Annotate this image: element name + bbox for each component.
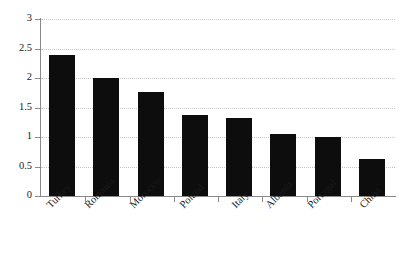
y-tick-label: 1 [0, 131, 32, 142]
y-tick-label: 3 [0, 13, 32, 24]
gridline [41, 49, 395, 50]
gridline [41, 19, 395, 20]
y-tick-mark [35, 196, 41, 197]
y-tick-label: 0 [0, 190, 32, 201]
bar [226, 118, 252, 196]
x-tick-mark [174, 197, 175, 202]
y-tick-label: 1.5 [0, 102, 32, 113]
y-tick-label: 0.5 [0, 161, 32, 172]
x-tick-mark [351, 197, 352, 202]
y-tick-mark [35, 49, 41, 50]
y-tick-label: 2.5 [0, 43, 32, 54]
bar-chart: 00.511.522.53 TurkeyRomaniaMoroccoPoland… [0, 0, 412, 260]
y-tick-mark [35, 137, 41, 138]
y-tick-mark [35, 108, 41, 109]
y-tick-label: 2 [0, 72, 32, 83]
y-tick-mark [35, 78, 41, 79]
bar [49, 55, 75, 196]
y-tick-mark [35, 167, 41, 168]
x-tick-mark [218, 197, 219, 202]
y-tick-mark [35, 19, 41, 20]
